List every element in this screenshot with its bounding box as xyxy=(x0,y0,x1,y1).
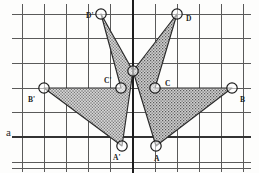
figure-canvas xyxy=(0,0,259,173)
vertex-label-B: B xyxy=(240,96,245,104)
vertex-label-B-prime: B' xyxy=(28,96,35,104)
vertex-marker-A-prime xyxy=(117,141,127,151)
vertex-marker-B xyxy=(227,83,237,93)
vertex-marker-C xyxy=(150,83,160,93)
vertex-marker-B-prime xyxy=(39,83,49,93)
vertex-label-A-prime: A' xyxy=(113,154,121,162)
line-a-label: a xyxy=(6,127,11,138)
vertex-marker-D xyxy=(172,9,182,19)
vertex-label-A: A xyxy=(154,155,159,163)
vertex-label-C-prime: C' xyxy=(104,77,112,85)
vertex-label-D-prime: D' xyxy=(86,12,94,20)
geometry-figure: D'DC'CB'BA'A a xyxy=(0,0,259,173)
vertex-marker-apex xyxy=(128,66,138,76)
vertex-label-D: D xyxy=(186,15,191,23)
vertex-marker-C-prime xyxy=(116,83,126,93)
vertex-marker-D-prime xyxy=(96,9,106,19)
vertex-marker-A xyxy=(151,141,161,151)
vertex-label-C: C xyxy=(165,80,170,88)
